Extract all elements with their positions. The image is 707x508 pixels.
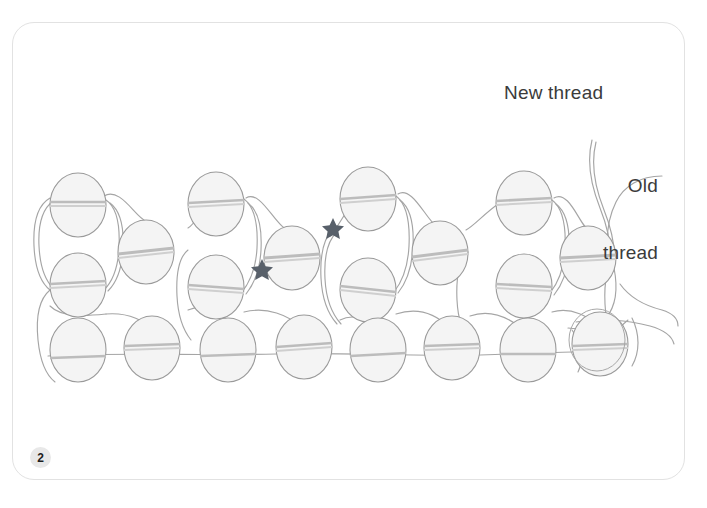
old-thread-label-line2: thread bbox=[600, 242, 658, 264]
page-root: New thread Old thread 2 bbox=[0, 0, 707, 508]
old-thread-label: Old thread bbox=[600, 130, 658, 309]
old-thread-label-line1: Old bbox=[600, 175, 658, 197]
new-thread-label: New thread bbox=[504, 82, 603, 104]
step-number-badge: 2 bbox=[30, 447, 51, 468]
